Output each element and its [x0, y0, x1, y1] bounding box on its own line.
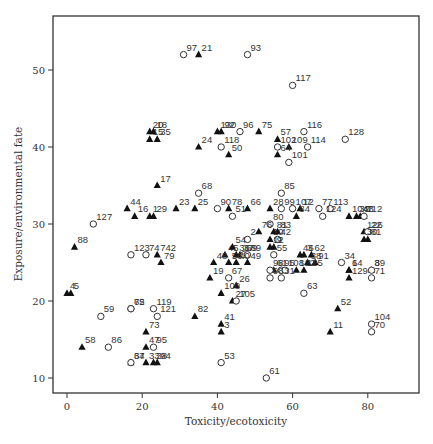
- point-label: 11: [333, 319, 343, 330]
- point-label: 96: [243, 119, 254, 130]
- x-tick-label: 40: [211, 401, 224, 412]
- point-label: 117: [296, 72, 311, 83]
- point-label: 40: [239, 250, 250, 261]
- point-label: 81: [371, 226, 382, 237]
- point-label: 75: [262, 119, 273, 130]
- point-label: 17: [160, 173, 171, 184]
- point-label: 92: [224, 119, 235, 130]
- point-label: 61: [269, 365, 280, 376]
- data-points: 9721931172018153513092967511612824118571…: [63, 42, 390, 382]
- point-label: 25: [198, 196, 209, 207]
- point-label: 109: [292, 134, 308, 145]
- point-label: 70: [375, 319, 386, 330]
- point-label: 66: [250, 196, 261, 207]
- scatter-chart: 020406080 1020304050 9721931172018153513…: [0, 0, 433, 444]
- point-label: 2: [250, 226, 255, 237]
- point-label: 82: [198, 303, 209, 314]
- point-label: 50: [232, 142, 243, 153]
- y-tick-label: 40: [32, 142, 45, 153]
- point-label: 5: [74, 280, 79, 291]
- point-label: 64: [134, 350, 145, 361]
- point-label: 23: [179, 196, 190, 207]
- point-label: 19: [213, 265, 224, 276]
- point-label: 112: [367, 203, 382, 214]
- point-label: 116: [307, 119, 322, 130]
- point-label: 99: [284, 196, 295, 207]
- x-tick-label: 60: [286, 401, 299, 412]
- x-tick-label: 0: [64, 401, 70, 412]
- point-label: 64: [281, 142, 292, 153]
- point-label: 84: [299, 203, 310, 214]
- point-label: 31: [284, 265, 295, 276]
- point-label: 21: [202, 42, 213, 53]
- point-label: 88: [78, 234, 89, 245]
- y-tick-label: 20: [32, 296, 45, 307]
- point-label: 16: [138, 203, 149, 214]
- x-tick-label: 80: [361, 401, 374, 412]
- point-label: 24: [202, 134, 213, 145]
- x-tick-label: 20: [136, 401, 149, 412]
- point-label: 93: [250, 42, 261, 53]
- point-label: 127: [96, 211, 112, 222]
- y-tick-label: 30: [32, 219, 45, 230]
- point-label: 52: [341, 296, 352, 307]
- point-label: 59: [104, 303, 115, 314]
- point-label: 35: [160, 126, 171, 137]
- point-label: 28: [273, 196, 284, 207]
- point-label: 29: [156, 203, 167, 214]
- y-axis-title: Exposure/environmental fate: [12, 127, 24, 282]
- point-label: 124: [326, 203, 342, 214]
- point-label: 73: [149, 319, 160, 330]
- point-label: 68: [202, 180, 213, 191]
- point-label: 63: [307, 280, 318, 291]
- point-label: 114: [311, 134, 326, 145]
- y-tick-label: 50: [32, 65, 45, 76]
- point-label: 48: [217, 250, 228, 261]
- point-label: 49: [250, 250, 261, 261]
- point-label: 3: [224, 319, 229, 330]
- point-label: 128: [348, 126, 364, 137]
- point-label: 129: [352, 265, 368, 276]
- point-label: 76: [262, 219, 273, 230]
- point-label: 101: [292, 149, 308, 160]
- point-label: 95: [156, 334, 167, 345]
- point-label: 98: [273, 265, 284, 276]
- point-label: 90: [220, 196, 231, 207]
- y-tick-label: 10: [32, 373, 45, 384]
- x-axis: 020406080: [64, 393, 374, 412]
- point-label: 72: [134, 296, 145, 307]
- x-axis-title: Toxicity/ecotoxicity: [185, 415, 287, 427]
- point-label: 51: [235, 203, 246, 214]
- point-label: 97: [187, 42, 198, 53]
- point-label: 94: [160, 350, 171, 361]
- point-label: 53: [224, 350, 235, 361]
- point-label: 79: [164, 250, 175, 261]
- point-label: 26: [239, 273, 250, 284]
- y-axis: 1020304050: [32, 65, 53, 384]
- point-label: 123: [134, 242, 150, 253]
- point-label: 86: [111, 334, 122, 345]
- point-label: 105: [239, 288, 255, 299]
- point-label: 125: [307, 257, 323, 268]
- point-label: 121: [160, 303, 176, 314]
- point-label: 74: [149, 242, 160, 253]
- point-label: 55: [277, 242, 288, 253]
- point-label: 85: [284, 180, 295, 191]
- point-label: 71: [375, 265, 386, 276]
- point-label: 58: [85, 334, 96, 345]
